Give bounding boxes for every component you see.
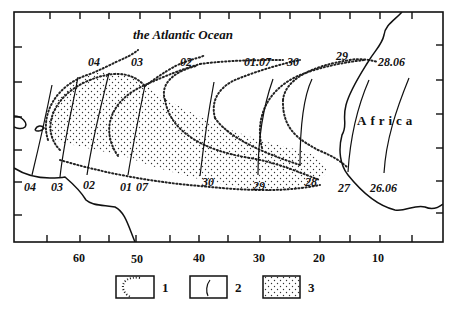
svg-text:50: 50 — [131, 252, 143, 266]
svg-text:01: 01 — [120, 180, 132, 194]
svg-text:28.06: 28.06 — [377, 55, 405, 69]
stippled-area — [48, 71, 326, 191]
bottom-ticks — [47, 235, 412, 242]
left-ticks — [14, 47, 22, 215]
svg-text:30: 30 — [286, 55, 299, 69]
top-ticks — [50, 12, 412, 19]
svg-text:29: 29 — [335, 49, 348, 63]
svg-text:07: 07 — [136, 180, 149, 194]
svg-text:28: 28 — [304, 175, 317, 189]
svg-text:30: 30 — [201, 175, 214, 189]
svg-text:04: 04 — [24, 180, 36, 194]
svg-text:2: 2 — [235, 280, 242, 295]
svg-text:03: 03 — [131, 55, 143, 69]
svg-text:03: 03 — [51, 180, 63, 194]
continent-label: Africa — [357, 113, 416, 128]
svg-text:60: 60 — [73, 251, 85, 265]
svg-text:20: 20 — [313, 251, 325, 265]
svg-text:10: 10 — [372, 251, 384, 265]
right-ticks — [436, 45, 443, 213]
svg-text:02: 02 — [180, 55, 192, 69]
map-figure: the Atlantic Ocean Africa 04 03 02 01.07… — [0, 0, 455, 311]
svg-text:26.06: 26.06 — [369, 181, 397, 195]
svg-text:30: 30 — [253, 251, 265, 265]
ocean-label: the Atlantic Ocean — [133, 27, 233, 42]
svg-text:04: 04 — [88, 55, 100, 69]
svg-text:3: 3 — [308, 280, 315, 295]
svg-text:29: 29 — [252, 179, 265, 193]
svg-text:02: 02 — [83, 178, 95, 192]
x-axis-labels: 60 50 40 30 20 10 — [73, 251, 384, 266]
legend-item-isoline: 2 — [190, 276, 242, 298]
svg-text:01.07: 01.07 — [244, 55, 272, 69]
legend-item-stippled-area: 3 — [263, 276, 315, 298]
svg-text:40: 40 — [193, 251, 205, 265]
legend: 1 2 3 — [116, 276, 315, 298]
svg-text:1: 1 — [162, 280, 169, 295]
svg-text:27: 27 — [337, 181, 351, 195]
legend-item-dotted-envelope: 1 — [116, 276, 169, 298]
